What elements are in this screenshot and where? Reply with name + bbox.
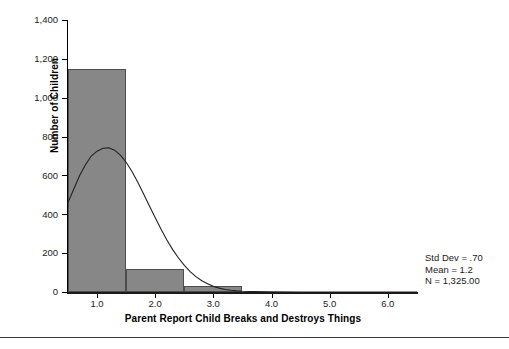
- x-axis-title: Parent Report Child Breaks and Destroys …: [68, 313, 418, 325]
- horizontal-rule: [0, 337, 509, 338]
- y-axis-tick: [62, 20, 67, 21]
- histogram-figure: 1,400 1,200 1,000 800 600 400 200 0 Numb…: [0, 0, 509, 349]
- y-axis-tick-label: 1,400: [34, 15, 58, 25]
- sample-size-value: N = 1,325.00: [425, 275, 483, 287]
- y-axis-title: Number of Children: [49, 46, 60, 166]
- y-axis-tick: [62, 175, 67, 176]
- plot-area: [68, 20, 417, 292]
- x-axis-line: [67, 292, 418, 294]
- y-axis-tick: [62, 98, 67, 99]
- x-axis-tick-label: 3.0: [193, 299, 233, 309]
- y-axis-tick: [62, 59, 67, 60]
- y-axis-tick: [62, 253, 67, 254]
- x-axis-tick-label: 4.0: [252, 299, 292, 309]
- mean-value: Mean = 1.2: [425, 264, 483, 276]
- y-axis-tick-label: 200: [42, 248, 58, 258]
- y-axis-tick: [62, 137, 67, 138]
- normal-distribution-curve: [68, 20, 417, 292]
- x-axis-tick-label: 1.0: [77, 299, 117, 309]
- x-axis-tick-label: 5.0: [310, 299, 350, 309]
- y-axis-tick-label: 600: [42, 171, 58, 181]
- y-axis-tick: [62, 214, 67, 215]
- x-axis-tick-label: 6.0: [368, 299, 408, 309]
- y-axis-tick-label: 400: [42, 210, 58, 220]
- y-axis-tick-label: 0: [53, 287, 58, 297]
- std-dev-value: Std Dev = .70: [425, 252, 483, 264]
- x-axis-tick-label: 2.0: [135, 299, 175, 309]
- statistics-annotation: Std Dev = .70 Mean = 1.2 N = 1,325.00: [425, 252, 483, 287]
